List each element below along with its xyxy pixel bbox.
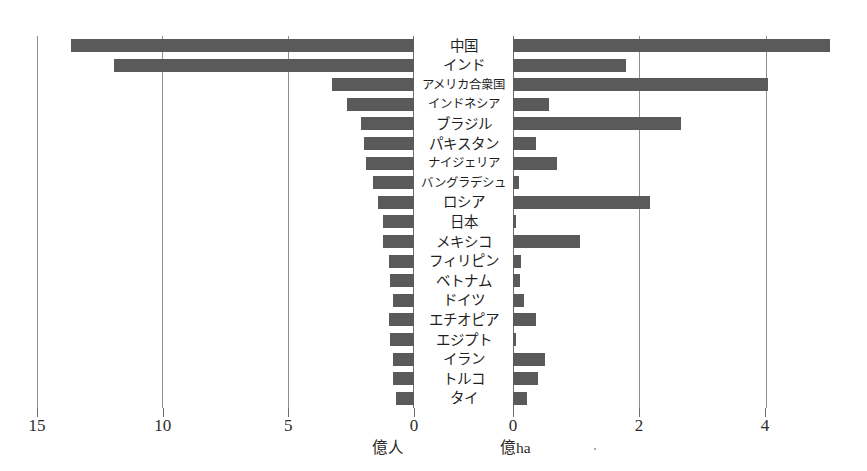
table-row <box>37 389 414 409</box>
bar-farmland <box>513 176 519 189</box>
category-label: フィリピン <box>414 252 513 272</box>
table-row <box>37 193 414 213</box>
bar-farmland <box>513 137 536 150</box>
left-plot-area <box>37 36 414 408</box>
table-row <box>513 36 830 56</box>
category-label: ブラジル <box>414 114 513 134</box>
table-row <box>37 212 414 232</box>
category-label: イラン <box>414 350 513 370</box>
category-label: タイ <box>414 389 513 409</box>
category-label: ベトナム <box>414 271 513 291</box>
table-row <box>37 154 414 174</box>
bar-farmland <box>513 372 538 385</box>
table-row <box>37 75 414 95</box>
category-label: メキシコ <box>414 232 513 252</box>
table-row <box>513 95 830 115</box>
bar-farmland <box>513 392 527 405</box>
bar-population <box>366 157 414 170</box>
category-label: アメリカ合衆国 <box>414 75 513 95</box>
bar-farmland <box>513 255 521 268</box>
table-row <box>513 350 830 370</box>
bar-farmland <box>513 39 830 52</box>
category-label: インドネシア <box>414 95 513 115</box>
table-row <box>513 134 830 154</box>
table-row <box>37 36 414 56</box>
table-row <box>513 271 830 291</box>
table-row <box>37 310 414 330</box>
table-row <box>513 56 830 76</box>
bar-population <box>332 78 414 91</box>
right-axis-0-tick-label: 0 <box>493 417 533 434</box>
category-label: インド <box>414 56 513 76</box>
table-row <box>513 330 830 350</box>
bar-population <box>71 39 414 52</box>
category-label: エジプト <box>414 330 513 350</box>
bar-farmland <box>513 215 516 228</box>
table-row <box>37 252 414 272</box>
left-bar-rows <box>37 36 414 408</box>
bar-farmland <box>513 157 557 170</box>
bar-farmland <box>513 98 549 111</box>
left-axis-0-tick-label: 0 <box>394 417 434 434</box>
bar-farmland <box>513 78 768 91</box>
table-row <box>513 389 830 409</box>
table-row <box>513 114 830 134</box>
bar-farmland <box>513 333 516 346</box>
table-row <box>37 330 414 350</box>
category-label: トルコ <box>414 369 513 389</box>
table-row <box>37 232 414 252</box>
right-axis-4-tick-label: 4 <box>745 417 785 434</box>
table-row <box>513 232 830 252</box>
bar-farmland <box>513 59 626 72</box>
right-bar-rows <box>513 36 830 408</box>
category-label: バングラデシュ <box>414 173 513 193</box>
left-axis-unit-label: 億人 <box>372 440 404 456</box>
table-row <box>513 252 830 272</box>
table-row <box>37 95 414 115</box>
left-axis-10-tick-label: 10 <box>143 417 183 434</box>
right-axis-2-tick-label: 2 <box>619 417 659 434</box>
bar-population <box>361 117 414 130</box>
category-label: ドイツ <box>414 291 513 311</box>
left-axis-15-tick-label: 15 <box>17 417 57 434</box>
bar-population <box>373 176 414 189</box>
table-row <box>513 369 830 389</box>
table-row <box>37 271 414 291</box>
table-row <box>37 114 414 134</box>
table-row <box>513 212 830 232</box>
table-row <box>37 56 414 76</box>
bar-farmland <box>513 117 681 130</box>
bar-population <box>389 313 414 326</box>
bar-population <box>383 235 414 248</box>
bar-farmland <box>513 294 524 307</box>
table-row <box>37 173 414 193</box>
table-row <box>37 134 414 154</box>
bar-population <box>393 353 414 366</box>
bar-population <box>378 196 414 209</box>
table-row <box>37 291 414 311</box>
category-label: パキスタン <box>414 134 513 154</box>
table-row <box>37 350 414 370</box>
bar-population <box>114 59 414 72</box>
table-row <box>513 193 830 213</box>
category-label: ロシア <box>414 193 513 213</box>
category-label-column: 中国インドアメリカ合衆国インドネシアブラジルパキスタンナイジェリアバングラデシュ… <box>414 36 513 408</box>
table-row <box>513 310 830 330</box>
category-label: 中国 <box>414 36 513 56</box>
category-label: ナイジェリア <box>414 154 513 174</box>
bar-population <box>364 137 414 150</box>
table-row <box>513 75 830 95</box>
category-label: 日本 <box>414 212 513 232</box>
table-row <box>513 154 830 174</box>
right-plot-area <box>513 36 830 408</box>
right-axis-unit-label: 億ha <box>500 440 531 456</box>
bar-farmland <box>513 313 536 326</box>
table-row <box>37 369 414 389</box>
chart-container: 中国インドアメリカ合衆国インドネシアブラジルパキスタンナイジェリアバングラデシュ… <box>0 0 867 471</box>
bar-population <box>396 392 414 405</box>
bar-farmland <box>513 196 650 209</box>
bar-population <box>390 274 414 287</box>
bar-population <box>389 255 414 268</box>
bar-farmland <box>513 353 545 366</box>
bar-population <box>390 333 414 346</box>
